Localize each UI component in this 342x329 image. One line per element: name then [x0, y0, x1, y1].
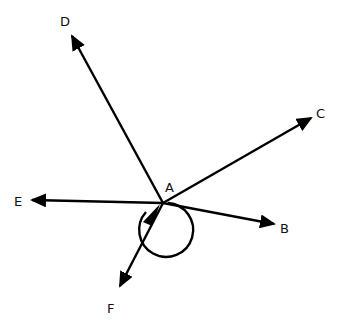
diagram-canvas: A D C E B F: [0, 0, 342, 329]
ray-label-C: C: [316, 106, 325, 121]
ray-AC: [163, 118, 311, 203]
angle-diagram: A D C E B F: [0, 0, 342, 329]
ray-label-B: B: [280, 221, 289, 236]
ray-label-D: D: [60, 14, 70, 29]
ray-AD: [72, 36, 163, 203]
reflex-angle-arc: [139, 203, 193, 257]
vertex-label-A: A: [165, 180, 174, 195]
ray-AE: [32, 200, 163, 203]
ray-AF: [120, 203, 163, 286]
ray-label-E: E: [14, 194, 22, 209]
ray-label-F: F: [107, 301, 114, 316]
